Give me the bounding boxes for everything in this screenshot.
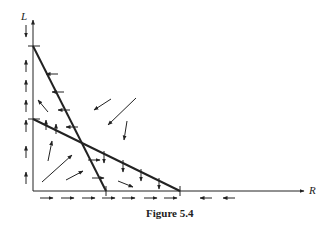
l-axis-label: L bbox=[21, 10, 27, 22]
r-axis-label: R bbox=[309, 184, 316, 196]
flow-arrows bbox=[26, 25, 235, 198]
phase-diagram bbox=[0, 0, 335, 233]
figure-caption: Figure 5.4 bbox=[146, 207, 193, 219]
steep-isocline bbox=[33, 46, 106, 191]
shallow-isocline bbox=[33, 119, 180, 191]
